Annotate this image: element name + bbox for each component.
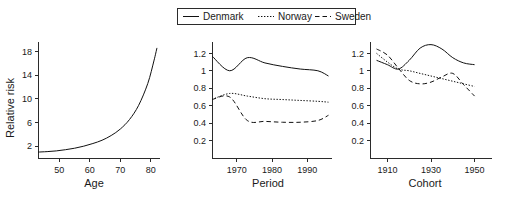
panel-cohort-plot: [377, 45, 475, 96]
legend-label-sweden: Sweden: [335, 11, 371, 22]
ytick-label: 1: [201, 66, 206, 76]
ytick-label: 0.4: [193, 118, 206, 128]
panel-cohort: 0.20.40.60.811.2 191019301950 Cohort: [351, 42, 492, 189]
xtick-label: 1980: [262, 165, 282, 175]
series-line-denmark: [212, 56, 328, 76]
ytick-label: 0.8: [351, 83, 364, 93]
age-period-cohort-figure: Denmark Norway Sweden Relative risk 2610…: [0, 0, 505, 200]
ytick-label: 1.2: [351, 49, 364, 59]
panel-age-plot: [38, 48, 157, 152]
ytick-label: 0.8: [193, 83, 206, 93]
legend-label-norway: Norway: [278, 11, 312, 22]
panel-period-xlabel: Period: [252, 177, 284, 189]
panel-period: 0.20.40.60.811.2 197019801990 Period: [193, 42, 332, 189]
panel-age-ylabel: Relative risk: [4, 78, 16, 138]
ytick-label: 0.4: [351, 118, 364, 128]
legend-label-denmark: Denmark: [203, 11, 245, 22]
panel-period-xaxis: 197019801990: [212, 159, 332, 176]
figure-canvas: Denmark Norway Sweden Relative risk 2610…: [0, 0, 505, 200]
xtick-label: 50: [54, 165, 64, 175]
xtick-label: 80: [146, 165, 156, 175]
series-line-sweden: [377, 49, 475, 96]
xtick-label: 1950: [465, 165, 485, 175]
series-line-sweden: [212, 96, 328, 123]
xtick-label: 1910: [377, 165, 397, 175]
ytick-label: 0.6: [193, 101, 206, 111]
series-line-norway: [377, 53, 475, 86]
ytick-label: 10: [22, 94, 32, 104]
xtick-label: 60: [85, 165, 95, 175]
panel-period-plot: [212, 56, 328, 123]
panel-age-yaxis: 26101418: [22, 42, 39, 158]
ytick-label: 0.6: [351, 101, 364, 111]
xtick-label: 1970: [227, 165, 247, 175]
panel-cohort-xlabel: Cohort: [408, 177, 441, 189]
panel-cohort-xaxis: 191019301950: [370, 159, 492, 176]
ytick-label: 1: [359, 66, 364, 76]
panel-cohort-yaxis: 0.20.40.60.811.2: [351, 42, 370, 158]
ytick-label: 6: [27, 118, 32, 128]
ytick-label: 0.2: [193, 136, 206, 146]
ytick-label: 2: [27, 141, 32, 151]
series-line-norway: [212, 93, 328, 102]
series-line-denmark: [38, 48, 157, 152]
xtick-label: 70: [115, 165, 125, 175]
ytick-label: 18: [22, 47, 32, 57]
xtick-label: 1930: [421, 165, 441, 175]
panel-age-xlabel: Age: [84, 177, 104, 189]
xtick-label: 1990: [297, 165, 317, 175]
ytick-label: 0.2: [351, 136, 364, 146]
ytick-label: 14: [22, 70, 32, 80]
panel-age-xaxis: 50607080: [38, 159, 160, 176]
legend: Denmark Norway Sweden: [178, 9, 372, 25]
panel-period-yaxis: 0.20.40.60.811.2: [193, 42, 212, 158]
panel-age: Relative risk 26101418 50607080 Age: [4, 42, 160, 189]
ytick-label: 1.2: [193, 49, 206, 59]
